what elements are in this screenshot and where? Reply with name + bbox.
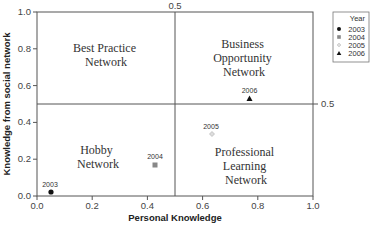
y-axis-label: Knowledge from social network: [1, 32, 12, 176]
circle-marker-icon: [48, 189, 53, 194]
x-axis: [37, 196, 313, 200]
legend-title: Year: [350, 14, 366, 23]
x-tick-label: 0.6: [196, 200, 209, 211]
quadrant-label-hobby: Hobby Network: [77, 143, 119, 171]
y-tick-label: 0.4: [18, 116, 31, 127]
y-tick-label: 0.8: [18, 43, 31, 54]
legend: Year 2003 2004 2005 2006: [333, 12, 369, 62]
y-axis: [33, 12, 37, 196]
y-tick-label: 0.2: [18, 153, 31, 164]
reference-label-horizontal: 0.5: [321, 98, 334, 109]
x-tick-label: 0.4: [141, 200, 154, 211]
x-tick-label: 1.0: [306, 200, 319, 211]
y-tick-label: 1.0: [18, 6, 31, 17]
point-label: 2004: [147, 153, 163, 160]
point-label: 2005: [203, 123, 219, 130]
square-marker-icon: [153, 163, 158, 168]
y-tick-label: 0.0: [18, 190, 31, 201]
y-tick-label: 0.6: [18, 80, 31, 91]
point-label: 2006: [242, 87, 258, 94]
legend-entry: 2006: [348, 49, 365, 58]
scatter-chart: 0.5 0.5 0.0 0.2 0.4 0.6 0.8 1.0 0.0 0.2 …: [0, 0, 374, 225]
reference-label-vertical: 0.5: [168, 0, 181, 11]
point-label: 2003: [42, 181, 58, 188]
x-tick-label: 0.2: [86, 200, 99, 211]
x-tick-label: 0.0: [30, 200, 43, 211]
x-axis-label: Personal Knowledge: [128, 212, 221, 223]
x-tick-label: 0.8: [251, 200, 264, 211]
circle-marker-icon: [337, 27, 341, 31]
square-marker-icon: [337, 35, 341, 39]
